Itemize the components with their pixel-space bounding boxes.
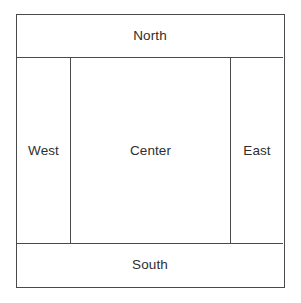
region-center[interactable]: Center xyxy=(71,58,230,243)
region-north-label: North xyxy=(133,29,167,43)
region-west[interactable]: West xyxy=(17,58,71,243)
region-east-label: East xyxy=(243,144,270,158)
region-south-label: South xyxy=(132,258,168,272)
region-north[interactable]: North xyxy=(17,15,283,58)
region-south[interactable]: South xyxy=(17,243,283,286)
region-west-label: West xyxy=(28,144,59,158)
border-layout-frame: North West Center East South xyxy=(16,14,285,288)
middle-band: West Center East xyxy=(17,58,283,243)
diagram-canvas: North West Center East South xyxy=(0,0,301,303)
region-center-label: Center xyxy=(130,144,171,158)
region-east[interactable]: East xyxy=(230,58,283,243)
